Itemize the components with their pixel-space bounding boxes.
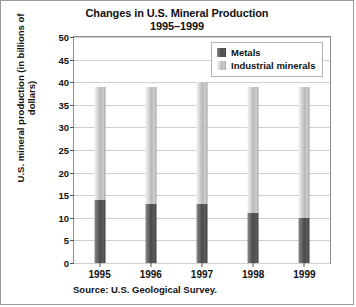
x-axis-tick-label: 1998 bbox=[242, 269, 264, 280]
y-axis-tick-label: 25 bbox=[58, 145, 69, 156]
bar-segment-metals[interactable] bbox=[196, 204, 207, 263]
stacked-bar[interactable] bbox=[94, 87, 105, 263]
chart-figure: Changes in U.S. Mineral Production 1995–… bbox=[0, 0, 354, 305]
bar-segment-metals[interactable] bbox=[299, 218, 310, 263]
x-axis-tick-label: 1995 bbox=[88, 269, 110, 280]
bar-segment-industrial-minerals[interactable] bbox=[145, 87, 156, 205]
chart-title: Changes in U.S. Mineral Production bbox=[1, 7, 353, 20]
chart-subtitle: 1995–1999 bbox=[1, 20, 353, 33]
legend-item-industrial-minerals: Industrial minerals bbox=[217, 59, 315, 72]
source-note: Source: U.S. Geological Survey. bbox=[73, 284, 217, 295]
bar-segment-metals[interactable] bbox=[248, 213, 259, 263]
bar-segment-industrial-minerals[interactable] bbox=[299, 87, 310, 218]
y-axis-tick-label: 20 bbox=[58, 167, 69, 178]
bar-segment-metals[interactable] bbox=[94, 200, 105, 263]
chart-legend: Metals Industrial minerals bbox=[211, 42, 323, 77]
bar-segment-industrial-minerals[interactable] bbox=[94, 87, 105, 200]
legend-label-metals: Metals bbox=[231, 47, 261, 58]
y-axis-tick-label: 35 bbox=[58, 99, 69, 110]
stacked-bar[interactable] bbox=[196, 82, 207, 263]
y-axis-tick-mark bbox=[70, 263, 74, 264]
y-axis-tick-label: 0 bbox=[64, 258, 69, 269]
stacked-bar[interactable] bbox=[145, 87, 156, 263]
x-axis-tick-mark bbox=[304, 263, 305, 267]
x-axis-tick-label: 1999 bbox=[293, 269, 315, 280]
y-axis-tick-label: 10 bbox=[58, 212, 69, 223]
y-axis-tick-label: 30 bbox=[58, 122, 69, 133]
bar-segment-metals[interactable] bbox=[145, 204, 156, 263]
legend-swatch-industrial-minerals bbox=[217, 61, 226, 70]
x-axis-tick-mark bbox=[253, 263, 254, 267]
x-axis-tick-mark bbox=[150, 263, 151, 267]
x-axis-tick-mark bbox=[201, 263, 202, 267]
legend-item-metals: Metals bbox=[217, 46, 315, 59]
y-axis-tick-label: 40 bbox=[58, 77, 69, 88]
x-axis-tick-mark bbox=[99, 263, 100, 267]
x-axis-tick-label: 1996 bbox=[140, 269, 162, 280]
bar-segment-industrial-minerals[interactable] bbox=[196, 82, 207, 204]
bar-slot: 1996 bbox=[125, 37, 176, 263]
y-axis-title: U.S. mineral production (in billions of … bbox=[15, 13, 37, 183]
bar-slot: 1995 bbox=[74, 37, 125, 263]
stacked-bar[interactable] bbox=[248, 87, 259, 263]
legend-label-industrial-minerals: Industrial minerals bbox=[231, 60, 315, 71]
legend-swatch-metals bbox=[217, 48, 226, 57]
chart-title-block: Changes in U.S. Mineral Production 1995–… bbox=[1, 7, 353, 33]
y-axis-tick-label: 5 bbox=[64, 235, 69, 246]
x-axis-tick-label: 1997 bbox=[191, 269, 213, 280]
y-axis-tick-label: 45 bbox=[58, 54, 69, 65]
stacked-bar[interactable] bbox=[299, 87, 310, 263]
y-axis-tick-label: 15 bbox=[58, 190, 69, 201]
y-axis-tick-label: 50 bbox=[58, 32, 69, 43]
bar-segment-industrial-minerals[interactable] bbox=[248, 87, 259, 214]
